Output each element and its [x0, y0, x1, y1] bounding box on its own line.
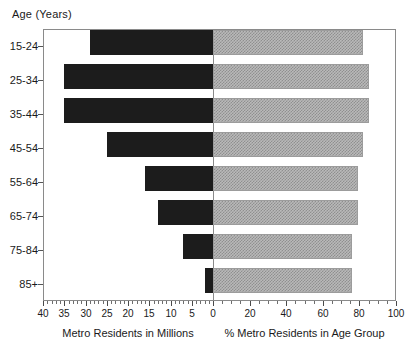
x-tick-minor: [240, 301, 241, 304]
bar-left-45-54: [107, 132, 213, 157]
x-tick-minor: [332, 301, 333, 304]
x-tick-minor: [90, 301, 91, 304]
x-tick-major: [286, 301, 287, 306]
x-axis-title-left: Metro Residents in Millions: [43, 327, 213, 339]
x-axis-title-right: % Metro Residents in Age Group: [213, 327, 396, 339]
bar-right-25-34: [213, 64, 369, 89]
x-tick-minor: [295, 301, 296, 304]
x-tick-label-left-25: 25: [101, 308, 112, 319]
x-tick-minor: [158, 301, 159, 304]
bar-left-75-84: [183, 234, 213, 259]
x-tick-minor: [175, 301, 176, 304]
x-tick-label-right-80: 80: [353, 308, 364, 319]
bar-right-75-84: [213, 234, 352, 259]
x-tick-minor: [77, 301, 78, 304]
x-tick-minor: [183, 301, 184, 304]
x-tick-major: [192, 301, 193, 306]
x-tick-minor: [60, 301, 61, 304]
x-tick-minor: [111, 301, 112, 304]
x-tick-minor: [94, 301, 95, 304]
x-tick-label-right-20: 20: [244, 308, 255, 319]
y-axis-labels: 15-2425-3435-4445-5455-6465-7475-8485+: [0, 0, 38, 353]
x-tick-major: [359, 301, 360, 306]
x-tick-minor: [268, 301, 269, 304]
x-tick-major: [396, 301, 397, 306]
category-label-35-44: 35-44: [0, 108, 38, 120]
x-tick-minor: [387, 301, 388, 304]
bar-left-65-74: [158, 200, 213, 225]
x-tick-minor: [222, 301, 223, 304]
x-tick-minor: [166, 301, 167, 304]
x-tick-major: [107, 301, 108, 306]
x-tick-minor: [277, 301, 278, 304]
x-tick-minor: [205, 301, 206, 304]
y-tick-25-34: [38, 80, 43, 81]
x-tick-minor: [162, 301, 163, 304]
x-tick-major: [43, 301, 44, 306]
category-label-85+: 85+: [0, 278, 38, 290]
x-tick-label-left-35: 35: [58, 308, 69, 319]
x-tick-minor: [52, 301, 53, 304]
x-tick-minor: [69, 301, 70, 304]
x-tick-minor: [196, 301, 197, 304]
bar-right-85+: [213, 268, 352, 293]
x-tick-minor: [341, 301, 342, 304]
bar-right-55-64: [213, 166, 358, 191]
x-tick-minor: [179, 301, 180, 304]
category-label-65-74: 65-74: [0, 210, 38, 222]
category-label-25-34: 25-34: [0, 74, 38, 86]
x-tick-minor: [132, 301, 133, 304]
x-tick-minor: [98, 301, 99, 304]
bidirectional-bar-chart: Age (Years) 15-2425-3435-4445-5455-6465-…: [0, 0, 410, 353]
x-tick-major: [323, 301, 324, 306]
x-tick-label-right-60: 60: [317, 308, 328, 319]
x-tick-minor: [137, 301, 138, 304]
x-tick-minor: [145, 301, 146, 304]
x-tick-label-left-15: 15: [143, 308, 154, 319]
x-tick-minor: [56, 301, 57, 304]
x-tick-minor: [47, 301, 48, 304]
y-tick-85+: [38, 284, 43, 285]
x-tick-minor: [73, 301, 74, 304]
x-tick-label-left-30: 30: [80, 308, 91, 319]
category-label-45-54: 45-54: [0, 142, 38, 154]
x-tick-minor: [259, 301, 260, 304]
y-tick-55-64: [38, 182, 43, 183]
x-tick-minor: [231, 301, 232, 304]
x-tick-minor: [120, 301, 121, 304]
x-tick-minor: [141, 301, 142, 304]
category-label-15-24: 15-24: [0, 40, 38, 52]
y-tick-45-54: [38, 148, 43, 149]
x-tick-minor: [369, 301, 370, 304]
bar-right-15-24: [213, 30, 363, 55]
x-tick-minor: [314, 301, 315, 304]
x-tick-major: [128, 301, 129, 306]
x-tick-major: [149, 301, 150, 306]
x-tick-major: [86, 301, 87, 306]
bar-right-65-74: [213, 200, 358, 225]
x-tick-minor: [209, 301, 210, 304]
bar-right-45-54: [213, 132, 363, 157]
x-tick-minor: [378, 301, 379, 304]
x-tick-minor: [154, 301, 155, 304]
x-tick-minor: [305, 301, 306, 304]
y-tick-65-74: [38, 216, 43, 217]
bar-left-35-44: [64, 98, 213, 123]
x-tick-label-left-20: 20: [122, 308, 133, 319]
x-tick-minor: [81, 301, 82, 304]
x-tick-major: [171, 301, 172, 306]
x-tick-major: [64, 301, 65, 306]
y-tick-75-84: [38, 250, 43, 251]
y-tick-35-44: [38, 114, 43, 115]
x-tick-major: [250, 301, 251, 306]
x-tick-minor: [115, 301, 116, 304]
x-tick-minor: [103, 301, 104, 304]
bar-right-35-44: [213, 98, 369, 123]
x-tick-minor: [200, 301, 201, 304]
x-tick-label-left-40: 40: [37, 308, 48, 319]
x-tick-minor: [124, 301, 125, 304]
x-tick-label-left-5: 5: [189, 308, 195, 319]
x-tick-minor: [188, 301, 189, 304]
bar-left-55-64: [145, 166, 213, 191]
x-tick-label-left-0: 0: [210, 308, 216, 319]
